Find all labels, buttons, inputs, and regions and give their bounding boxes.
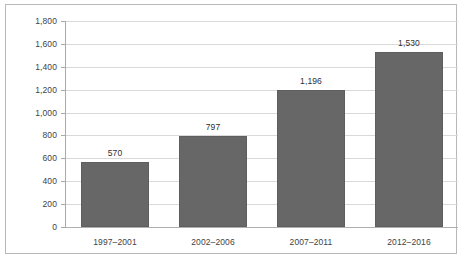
y-axis-tick-mark (61, 227, 65, 228)
y-axis-tick-label: 1,200 (9, 86, 57, 95)
bar[interactable] (81, 162, 149, 227)
y-axis-tick-label: 600 (9, 154, 57, 163)
bar[interactable] (179, 136, 247, 227)
y-axis-tick-mark (61, 44, 65, 45)
y-axis-tick-mark (61, 204, 65, 205)
bar[interactable] (277, 90, 345, 227)
y-axis-tick-label: 1,400 (9, 63, 57, 72)
y-axis-tick-label: 200 (9, 200, 57, 209)
gridline (66, 227, 458, 228)
y-axis-tick-mark (61, 181, 65, 182)
plot-area: 5707971,1961,530 (66, 21, 458, 227)
bar-value-label: 797 (173, 123, 253, 132)
y-axis-tick-label: 800 (9, 131, 57, 140)
x-axis-category-label: 1997–2001 (70, 238, 160, 247)
x-axis-category-label: 2012–2016 (364, 238, 454, 247)
y-axis-tick-mark (61, 67, 65, 68)
y-axis-tick-label: 1,800 (9, 17, 57, 26)
gridline (66, 21, 458, 22)
bar-value-label: 1,530 (369, 39, 449, 48)
y-axis-tick-mark (61, 135, 65, 136)
y-axis-tick-mark (61, 21, 65, 22)
x-axis-category-label: 2002–2006 (168, 238, 258, 247)
bar-value-label: 570 (75, 149, 155, 158)
y-axis-tick-label: 400 (9, 177, 57, 186)
y-axis-tick-mark (61, 90, 65, 91)
bar-value-label: 1,196 (271, 77, 351, 86)
y-axis-tick-label: 1,600 (9, 40, 57, 49)
y-axis-tick-label: 0 (9, 223, 57, 232)
y-axis-tick-labels: 1,8001,6001,4001,2001,0008006004002000 (6, 5, 57, 260)
x-axis-category-label: 2007–2011 (266, 238, 356, 247)
y-axis-tick-label: 1,000 (9, 109, 57, 118)
y-axis-tick-mark (61, 113, 65, 114)
y-axis-tick-mark (61, 158, 65, 159)
bar[interactable] (375, 52, 443, 227)
chart-frame: 1,8001,6001,4001,2001,0008006004002000 5… (5, 4, 457, 254)
